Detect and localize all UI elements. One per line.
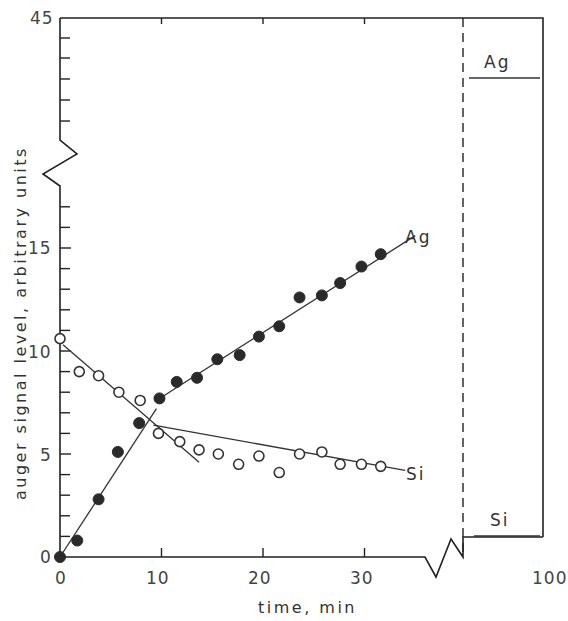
ag-data-point [134, 418, 145, 429]
si-data-point [94, 371, 104, 381]
ag-data-point [212, 354, 223, 365]
y-ticks [60, 38, 71, 536]
ag-data-point [375, 249, 386, 260]
si-data-point [254, 451, 264, 461]
x-tick-label-30: 30 [350, 568, 374, 588]
si-series-label: Si [406, 464, 426, 484]
ag-data-point [171, 376, 182, 387]
auger-signal-chart: 0 5 10 15 45 0 10 20 30 100 time, min au… [0, 0, 568, 621]
y-tick-labels: 0 5 10 15 45 [28, 8, 54, 567]
si-data-point [295, 449, 305, 459]
ag-data-point [192, 372, 203, 383]
y-tick-label-15: 15 [28, 238, 52, 258]
ag-fit-line [60, 409, 156, 557]
y-tick-label-0: 0 [40, 547, 52, 567]
ag-data-point [253, 331, 264, 342]
si-data-point [74, 367, 84, 377]
x-tick-label-0: 0 [55, 568, 67, 588]
si-data-point [114, 387, 124, 397]
x-axis-title: time, min [258, 598, 357, 617]
x-tick-label-20: 20 [248, 568, 272, 588]
x-tick-label-10: 10 [146, 568, 170, 588]
si-data-point [317, 447, 327, 457]
ag-data-point [274, 321, 285, 332]
si-data-point [175, 437, 185, 447]
fit-lines [60, 236, 415, 557]
ag-data-point [316, 290, 327, 301]
si-data-point [356, 459, 366, 469]
ag-data-point [55, 552, 66, 563]
data-points [55, 249, 387, 563]
y-tick-label-45: 45 [30, 8, 54, 28]
x-axis [60, 537, 543, 577]
si-data-point [55, 334, 65, 344]
ag-data-point [335, 278, 346, 289]
si-fit-line [153, 425, 405, 470]
ag-data-point [234, 350, 245, 361]
x-tick-label-100: 100 [532, 568, 567, 588]
ag-data-point [356, 261, 367, 272]
si-data-point [135, 395, 145, 405]
ag-series-label: Ag [405, 227, 431, 247]
y-axis-lower [43, 18, 77, 557]
y-tick-label-5: 5 [40, 445, 52, 465]
ag-data-point [154, 393, 165, 404]
ag-data-point [294, 292, 305, 303]
ag-data-point [72, 535, 83, 546]
ag-data-point [112, 446, 123, 457]
si-data-point [153, 428, 163, 438]
si-data-point [213, 449, 223, 459]
si-data-point [376, 461, 386, 471]
si-100min-label: Si [490, 510, 510, 530]
ag-100min-label: Ag [484, 52, 510, 72]
y-axis-title: auger signal level, arbitrary units [11, 146, 30, 500]
si-data-point [274, 468, 284, 478]
y-tick-label-10: 10 [28, 342, 52, 362]
si-data-point [194, 445, 204, 455]
x-tick-labels: 0 10 20 30 100 [55, 568, 567, 588]
ag-data-point [93, 494, 104, 505]
axes [43, 18, 543, 577]
si-data-point [335, 459, 345, 469]
si-data-point [234, 459, 244, 469]
